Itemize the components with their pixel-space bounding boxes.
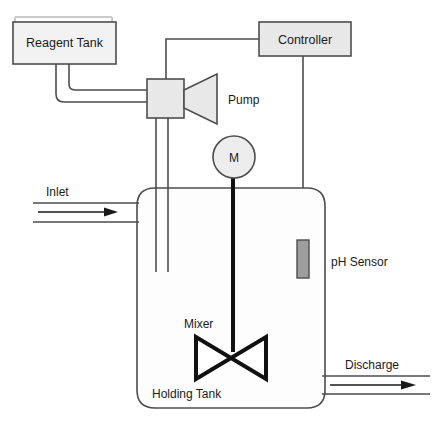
reagent-tank-group[interactable]: Reagent Tank [13, 17, 116, 64]
controller-label: Controller [278, 33, 332, 47]
discharge-label: Discharge [345, 358, 399, 372]
holding-tank-label: Holding Tank [152, 387, 222, 401]
pump-cone-icon[interactable] [184, 74, 217, 124]
controller-group[interactable]: Controller [259, 22, 351, 56]
ph-sensor-probe[interactable] [297, 240, 309, 278]
mixer-label: Mixer [184, 317, 213, 331]
inlet-label: Inlet [46, 185, 69, 199]
reagent-tank-label: Reagent Tank [26, 36, 104, 50]
process-diagram-canvas: Reagent Tank Controller Pump [0, 0, 436, 426]
inlet-flow-arrow-head-icon [104, 208, 118, 217]
pump-label: Pump [228, 93, 260, 107]
ph-sensor-label: pH Sensor [331, 255, 388, 269]
discharge-flow-arrow-head-icon [401, 381, 416, 390]
pump-body[interactable] [147, 79, 184, 118]
pump-group[interactable]: Pump [147, 74, 260, 124]
discharge-group: Discharge [322, 358, 430, 394]
inlet-group: Inlet [33, 185, 139, 222]
motor-label: M [229, 151, 239, 165]
process-diagram: Reagent Tank Controller Pump [0, 0, 436, 426]
controller-to-pump-signal-wire [166, 39, 259, 79]
reagent-pipe-to-pump [56, 64, 147, 102]
reagent-pipe-inner [69, 64, 147, 90]
